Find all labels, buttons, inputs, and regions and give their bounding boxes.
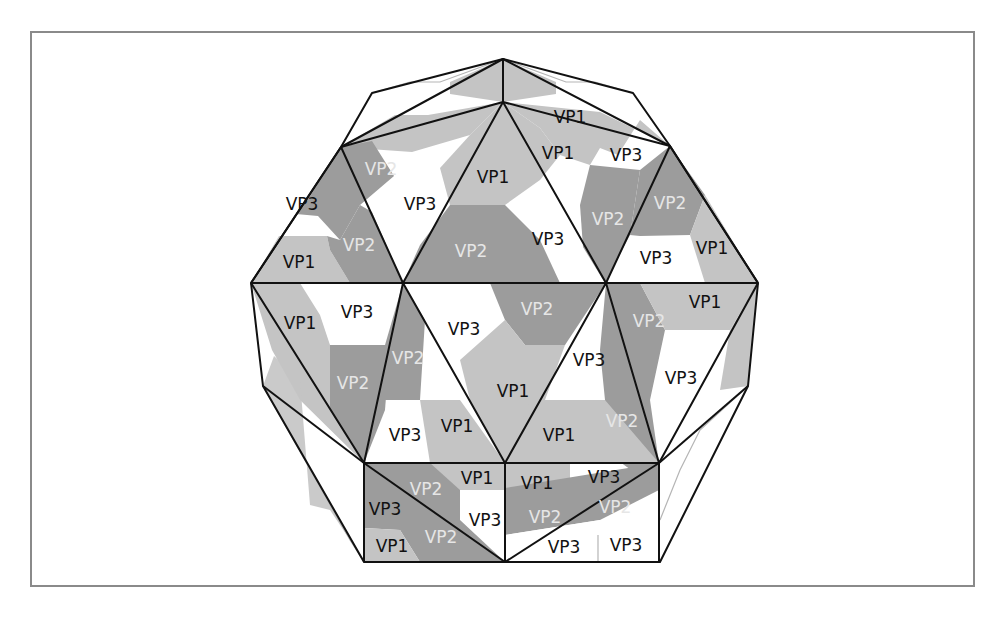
label-vp3: VP3	[573, 350, 606, 370]
label-vp2: VP2	[410, 479, 443, 499]
label-vp1: VP1	[521, 473, 554, 493]
label-vp2: VP2	[343, 235, 376, 255]
label-vp1: VP1	[689, 292, 722, 312]
label-vp3: VP3	[588, 467, 621, 487]
label-vp2: VP2	[529, 507, 562, 527]
label-vp3: VP3	[369, 499, 402, 519]
label-vp1: VP1	[283, 252, 316, 272]
label-vp2: VP2	[633, 311, 666, 331]
label-vp1: VP1	[461, 468, 494, 488]
label-vp1: VP1	[696, 238, 729, 258]
label-vp2: VP2	[365, 159, 398, 179]
label-vp3: VP3	[610, 535, 643, 555]
label-vp3: VP3	[665, 368, 698, 388]
label-vp1: VP1	[477, 167, 510, 187]
label-vp3: VP3	[389, 425, 422, 445]
label-vp2: VP2	[425, 527, 458, 547]
label-vp2: VP2	[606, 411, 639, 431]
label-vp1: VP1	[376, 536, 409, 556]
label-vp1: VP1	[441, 416, 474, 436]
label-vp3: VP3	[286, 194, 319, 214]
label-vp1: VP1	[284, 313, 317, 333]
label-vp2: VP2	[654, 193, 687, 213]
label-vp1: VP1	[542, 143, 575, 163]
label-vp2: VP2	[521, 299, 554, 319]
label-vp2: VP2	[337, 373, 370, 393]
label-vp3: VP3	[341, 302, 374, 322]
label-vp2: VP2	[392, 348, 425, 368]
label-vp3: VP3	[448, 319, 481, 339]
label-vp3: VP3	[548, 537, 581, 557]
capsid-diagram: VP1VP2VP1VP1VP3VP3VP3VP2VP2VP2VP2VP3VP1V…	[0, 0, 1007, 621]
label-vp1: VP1	[554, 107, 587, 127]
label-vp2: VP2	[599, 497, 632, 517]
label-vp3: VP3	[404, 194, 437, 214]
label-vp3: VP3	[532, 229, 565, 249]
label-vp3: VP3	[469, 510, 502, 530]
label-vp2: VP2	[455, 241, 488, 261]
label-vp3: VP3	[640, 248, 673, 268]
label-vp2: VP2	[592, 209, 625, 229]
label-vp1: VP1	[543, 425, 576, 445]
label-vp3: VP3	[610, 145, 643, 165]
label-vp1: VP1	[497, 381, 530, 401]
